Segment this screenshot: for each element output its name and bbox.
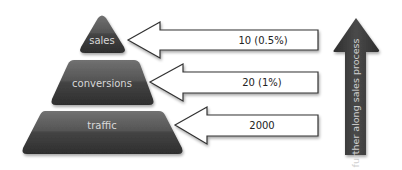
arrow-traffic-value [175, 107, 318, 144]
value-conversions: 20 (1%) [242, 77, 282, 88]
pyramid-label-conversions: conversions [72, 78, 132, 89]
pyramid-label-traffic: traffic [87, 120, 116, 131]
value-traffic: 2000 [249, 120, 274, 131]
value-sales: 10 (0.5%) [238, 35, 287, 46]
pyramid-label-sales: sales [89, 35, 114, 46]
vertical-arrow-label: further along sales process [350, 39, 361, 168]
pyramid-layer-traffic [23, 111, 183, 154]
funnel-diagram: sales conversions traffic 10 (0.5%) 20 (… [0, 0, 402, 170]
arrow-sales-value [128, 22, 318, 58]
arrow-conversions-value [150, 64, 318, 101]
